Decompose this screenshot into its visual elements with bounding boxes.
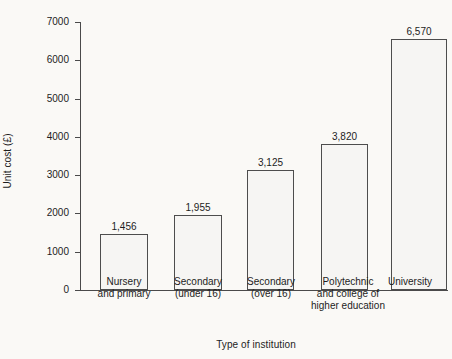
bar-secondary-over-16[interactable]: 3,125 xyxy=(247,170,294,290)
y-tick-label-0: 0 xyxy=(63,283,69,296)
plot-area: 7000 6000 5000 4000 3000 2000 1000 0 1,4… xyxy=(80,22,448,290)
y-tick-6000: 6000 xyxy=(75,60,81,61)
y-tick-5000: 5000 xyxy=(75,99,81,100)
bar-value-label: 1,955 xyxy=(185,202,210,213)
y-tick-3000: 3000 xyxy=(75,175,81,176)
y-tick-7000: 7000 xyxy=(75,22,81,23)
y-tick-label-1000: 1000 xyxy=(47,245,69,258)
y-tick-1000: 1000 xyxy=(75,252,81,253)
y-tick-label-6000: 6000 xyxy=(47,53,69,66)
y-tick-4000: 4000 xyxy=(75,137,81,138)
bar-university[interactable]: 6,570 xyxy=(391,39,447,291)
category-label-line1: University xyxy=(372,276,448,288)
bar-value-label: 3,125 xyxy=(258,157,283,168)
y-tick-label-2000: 2000 xyxy=(47,206,69,219)
bar-value-label: 3,820 xyxy=(332,131,357,142)
bar-chart: Unit cost (£) 7000 6000 5000 4000 3000 2… xyxy=(0,0,452,359)
y-tick-label-4000: 4000 xyxy=(47,130,69,143)
bar-value-label: 6,570 xyxy=(406,26,431,37)
y-tick-label-5000: 5000 xyxy=(47,92,69,105)
bar-value-label: 1,456 xyxy=(111,221,136,232)
y-axis-line xyxy=(80,22,81,291)
category-label-university: University xyxy=(372,276,448,288)
category-label-line3: higher education xyxy=(284,300,412,312)
category-label-line2: and college of xyxy=(284,288,412,300)
y-axis-title: Unit cost (£) xyxy=(2,96,13,226)
y-tick-2000: 2000 xyxy=(75,213,81,214)
x-axis-title: Type of institution xyxy=(0,339,452,350)
bar-polytechnic-and-college[interactable]: 3,820 xyxy=(321,144,368,290)
y-tick-label-3000: 3000 xyxy=(47,168,69,181)
y-tick-label-7000: 7000 xyxy=(47,15,69,28)
